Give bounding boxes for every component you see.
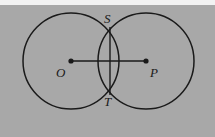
geometry-figure: O P S T: [0, 0, 215, 137]
point-label-P: P: [150, 66, 158, 79]
point-label-S: S: [104, 12, 111, 25]
point-label-T: T: [104, 95, 111, 108]
top-white-band: [0, 0, 215, 5]
point-dot-O: [68, 58, 73, 63]
point-dot-P: [143, 58, 148, 63]
point-label-O: O: [56, 66, 65, 79]
